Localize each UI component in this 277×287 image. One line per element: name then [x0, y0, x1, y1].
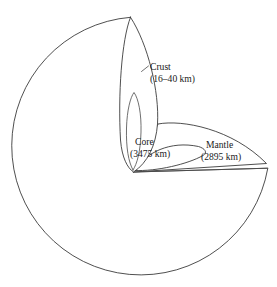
core-label: Core: [135, 136, 154, 147]
crust-label-group: Crust (16–40 km): [150, 61, 195, 85]
mantle-depth-label: (2895 km): [201, 151, 241, 163]
crust-label: Crust: [150, 61, 171, 72]
mantle-label: Mantle: [206, 139, 233, 150]
core-depth-label: (3475 km): [130, 148, 170, 160]
earth-cutaway-figure: Crust (16–40 km) Core (3475 km) Mantle (…: [0, 0, 277, 287]
crust-depth-label: (16–40 km): [150, 73, 195, 85]
